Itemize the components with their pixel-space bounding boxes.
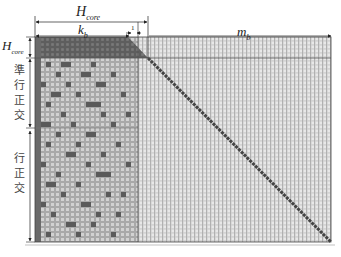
one-col-label: 1 (131, 24, 135, 32)
first-column (35, 37, 41, 242)
matrix-diagram (0, 0, 341, 257)
info-region (35, 37, 138, 242)
h-core-subscript: core (86, 13, 100, 22)
quasi-row-orthogonal-label: 準行正交 (10, 64, 26, 124)
row-orthogonal-label: 行正交 (10, 152, 26, 197)
mb-subscript: b (246, 33, 250, 42)
kb-label: kb (78, 22, 88, 40)
h-core-left-letter: H (2, 38, 11, 53)
h-core-left-subscript: core (11, 48, 23, 56)
mb-letter: m (237, 24, 246, 39)
h-core-top-label: Hcore (76, 4, 100, 22)
kb-subscript: b (84, 31, 88, 40)
h-core-left-label: Hcore (2, 38, 24, 56)
h-core-letter: H (76, 4, 86, 19)
mb-label: mb (237, 24, 250, 42)
